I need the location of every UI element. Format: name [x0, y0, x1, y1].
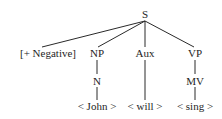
- edge-s-negative: [42, 21, 145, 47]
- node-vp: VP: [188, 48, 202, 59]
- leaf-will: < will >: [127, 101, 162, 112]
- node-negative: [+ Negative]: [20, 48, 76, 59]
- syntax-tree-diagram: S [+ Negative] NP Aux VP N MV < John > <…: [0, 0, 222, 119]
- edge-s-np: [98, 21, 145, 47]
- leaf-sing: < sing >: [177, 101, 213, 112]
- node-mv: MV: [186, 76, 204, 87]
- node-np: NP: [90, 48, 104, 59]
- node-n: N: [93, 76, 101, 87]
- node-aux: Aux: [136, 48, 155, 59]
- leaf-john: < John >: [78, 101, 117, 112]
- edge-s-vp: [145, 21, 194, 47]
- node-s: S: [142, 9, 148, 20]
